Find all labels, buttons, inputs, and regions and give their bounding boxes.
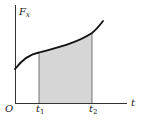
impulse-diagram: Fx O t t1 t2 xyxy=(0,0,144,125)
shaded-area xyxy=(39,33,92,103)
t1-label: t1 xyxy=(36,103,45,116)
x-axis-label: t xyxy=(131,97,136,108)
t2-label: t2 xyxy=(89,103,98,116)
origin-label: O xyxy=(5,103,13,114)
y-axis-label: Fx xyxy=(18,6,30,19)
